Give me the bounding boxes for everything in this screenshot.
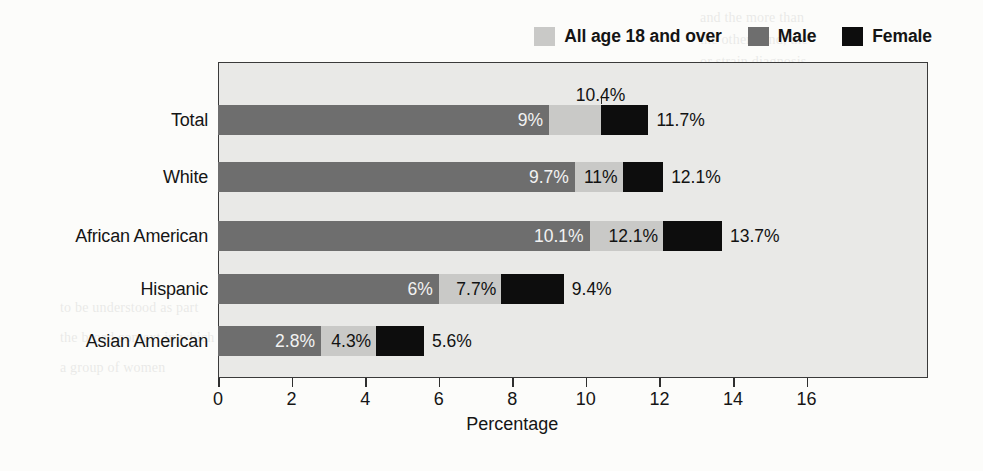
- value-label-female: 11.7%: [656, 110, 704, 131]
- legend-label: All age 18 and over: [564, 26, 722, 47]
- x-axis-tick: [733, 378, 735, 387]
- bar-segment-female[interactable]: [501, 274, 564, 304]
- x-axis-tick: [512, 378, 514, 387]
- x-axis-tick-label: 0: [213, 389, 223, 410]
- bar-segment-male[interactable]: [218, 274, 439, 304]
- legend-item-all[interactable]: All age 18 and over: [534, 26, 722, 47]
- legend-swatch-all-icon: [534, 27, 555, 46]
- x-axis-tick-label: 4: [360, 389, 370, 410]
- x-axis-tick-label: 10: [576, 389, 596, 410]
- value-label-female: 5.6%: [432, 331, 472, 352]
- legend-swatch-male-icon: [748, 27, 769, 46]
- bar-segment-female[interactable]: [601, 105, 649, 135]
- legend-item-female[interactable]: Female: [842, 26, 932, 47]
- x-axis-tick-label: 14: [723, 389, 743, 410]
- bar-row: Hispanic6%7.7%9.4%: [218, 274, 928, 304]
- value-label-all: 4.3%: [331, 331, 371, 352]
- x-axis-tick: [365, 378, 367, 387]
- category-label: Total: [171, 110, 208, 131]
- bar-segment-male[interactable]: [218, 105, 549, 135]
- x-axis-tick: [807, 378, 809, 387]
- x-axis-tick-label: 16: [797, 389, 817, 410]
- bar-row: African American10.1%12.1%13.7%: [218, 221, 928, 251]
- legend-label: Male: [778, 26, 817, 47]
- x-axis-tick: [218, 378, 220, 387]
- value-label-all: 7.7%: [456, 279, 496, 300]
- bar-row: Asian American2.8%4.3%5.6%: [218, 326, 928, 356]
- value-label-all: 11%: [584, 167, 618, 188]
- category-label: Hispanic: [141, 279, 208, 300]
- value-label-female: 13.7%: [730, 226, 780, 247]
- value-label-all: 12.1%: [609, 226, 659, 247]
- value-label-male: 9.7%: [529, 167, 569, 188]
- bar-segment-female[interactable]: [623, 162, 663, 192]
- chart-figure: All age 18 and overMaleFemale Total9%10.…: [0, 0, 983, 471]
- plot-area: Total9%10.4%11.7%White9.7%11%12.1%Africa…: [218, 62, 928, 378]
- value-label-all: 10.4%: [576, 85, 626, 106]
- x-axis-tick: [439, 378, 441, 387]
- x-axis-tick-label: 8: [507, 389, 517, 410]
- value-label-male: 2.8%: [275, 331, 315, 352]
- value-label-male: 6%: [407, 279, 432, 300]
- x-axis-tick: [586, 378, 588, 387]
- x-axis-title: Percentage: [466, 414, 558, 435]
- bar-segment-male[interactable]: [218, 162, 575, 192]
- bar-row: White9.7%11%12.1%: [218, 162, 928, 192]
- legend-item-male[interactable]: Male: [748, 26, 817, 47]
- bar-segment-female[interactable]: [376, 326, 424, 356]
- category-label: African American: [75, 226, 208, 247]
- category-label: White: [163, 167, 208, 188]
- x-axis-tick-label: 2: [287, 389, 297, 410]
- x-axis: Percentage 0246810121416: [218, 378, 928, 438]
- category-label: Asian American: [86, 331, 208, 352]
- value-label-male: 10.1%: [534, 226, 584, 247]
- bar-row: Total9%10.4%11.7%: [218, 105, 928, 135]
- x-axis-tick: [659, 378, 661, 387]
- value-label-female: 9.4%: [572, 279, 612, 300]
- x-axis-tick: [292, 378, 294, 387]
- value-label-male: 9%: [518, 110, 543, 131]
- value-label-female: 12.1%: [671, 167, 721, 188]
- x-axis-tick-label: 6: [434, 389, 444, 410]
- legend-swatch-female-icon: [842, 27, 863, 46]
- x-axis-tick-label: 12: [649, 389, 669, 410]
- chart-legend: All age 18 and overMaleFemale: [0, 26, 940, 47]
- legend-label: Female: [872, 26, 932, 47]
- bar-segment-female[interactable]: [663, 221, 722, 251]
